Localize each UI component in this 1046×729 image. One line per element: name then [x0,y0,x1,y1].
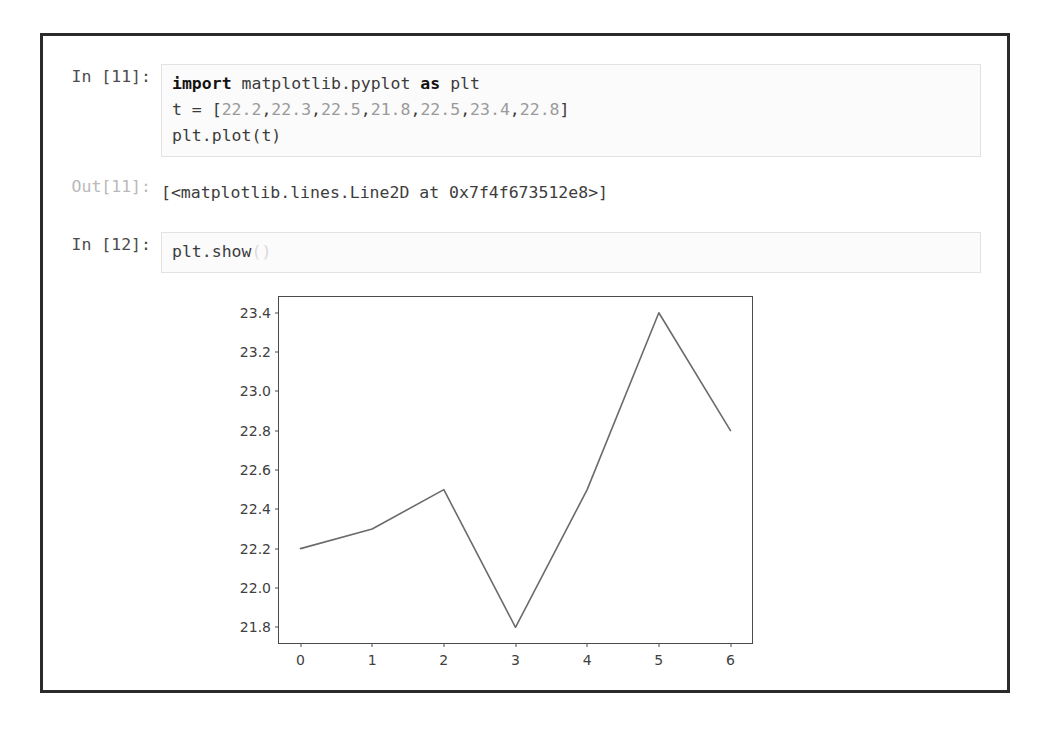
code-token: matplotlib.pyplot [232,74,421,93]
y-tick-label: 23.2 [240,344,271,360]
code-token: import [172,74,232,93]
code-token: as [420,74,440,93]
code-token: , [510,100,520,119]
code-token: plt [440,74,480,93]
x-tick-label: 6 [726,652,735,668]
x-tick-mark [730,643,731,647]
code-token: , [361,100,371,119]
y-tick-mark [275,509,279,510]
plot-axes: 21.822.022.222.422.622.823.023.223.40123… [278,296,753,644]
cell-prompt-in-11: In [11]: [43,64,161,90]
code-token: t = [ [172,100,222,119]
code-token: () [251,242,271,261]
notebook-cell-input-2[interactable]: In [12]: plt.show() [43,232,1009,273]
code-editor-2[interactable]: plt.show() [161,232,981,273]
line-plot-svg [279,297,752,643]
y-tick-label: 23.4 [240,305,271,321]
x-tick-label: 3 [511,652,520,668]
y-tick-mark [275,430,279,431]
code-token: 22.2 [222,100,262,119]
y-tick-label: 23.0 [240,383,271,399]
y-tick-mark [275,587,279,588]
x-tick-mark [658,643,659,647]
notebook-frame: In [11]: import matplotlib.pyplot as plt… [40,33,1010,693]
cell-prompt-in-12: In [12]: [43,232,161,258]
notebook-cell-input-1[interactable]: In [11]: import matplotlib.pyplot as plt… [43,64,1009,157]
y-tick-label: 22.4 [240,501,271,517]
y-tick-label: 22.8 [240,423,271,439]
y-tick-mark [275,627,279,628]
x-tick-mark [587,643,588,647]
x-tick-label: 2 [439,652,448,668]
code-token: ] [560,100,570,119]
code-token: , [410,100,420,119]
y-tick-mark [275,391,279,392]
x-tick-label: 1 [368,652,377,668]
x-tick-label: 5 [654,652,663,668]
code-token: , [311,100,321,119]
cell-prompt-out-11: Out[11]: [43,174,161,200]
x-tick-mark [515,643,516,647]
code-content-2: plt.show() [172,239,970,265]
code-token: 22.5 [420,100,460,119]
code-token: , [460,100,470,119]
data-line-t [300,313,730,628]
y-tick-label: 21.8 [240,619,271,635]
code-token: 23.4 [470,100,510,119]
x-tick-mark [300,643,301,647]
matplotlib-figure: 21.822.022.222.422.622.823.023.223.40123… [193,284,813,674]
code-token: 21.8 [371,100,411,119]
x-tick-label: 0 [296,652,305,668]
code-token: 22.8 [520,100,560,119]
code-editor-1[interactable]: import matplotlib.pyplot as plt t = [22.… [161,64,981,157]
code-token: plt.plot(t) [172,126,281,145]
y-tick-mark [275,312,279,313]
x-tick-mark [443,643,444,647]
y-tick-mark [275,352,279,353]
x-tick-label: 4 [583,652,592,668]
code-token: , [261,100,271,119]
notebook-screenshot: In [11]: import matplotlib.pyplot as plt… [0,0,1046,729]
y-tick-label: 22.6 [240,462,271,478]
x-tick-mark [372,643,373,647]
code-token: 22.3 [271,100,311,119]
code-token: plt.show [172,242,251,261]
y-tick-mark [275,548,279,549]
output-text-1: [<matplotlib.lines.Line2D at 0x7f4f67351… [161,174,608,206]
notebook-cell-output-1: Out[11]: [<matplotlib.lines.Line2D at 0x… [43,174,1009,206]
y-tick-label: 22.2 [240,541,271,557]
y-tick-mark [275,470,279,471]
code-content-1: import matplotlib.pyplot as plt t = [22.… [172,71,970,149]
code-token: 22.5 [321,100,361,119]
y-tick-label: 22.0 [240,580,271,596]
